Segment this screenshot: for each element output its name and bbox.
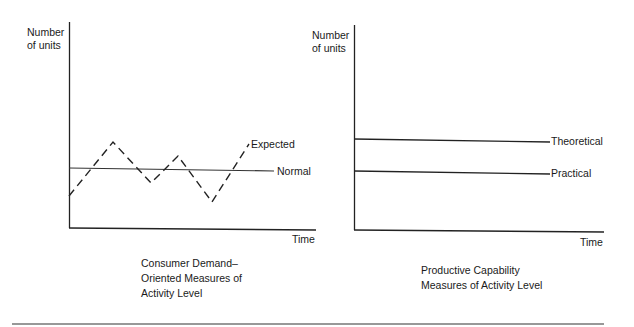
expected-label: Expected (251, 137, 295, 151)
left-caption: Consumer Demand– Oriented Measures of Ac… (141, 256, 242, 301)
right-caption: Productive Capability Measures of Activi… (421, 263, 542, 293)
right-xlabel: Time (580, 235, 603, 249)
theoretical-line (354, 139, 550, 142)
practical-label: Practical (551, 166, 591, 180)
left-ylabel-line1: Number (27, 25, 64, 39)
left-caption-line2: Oriented Measures of (141, 271, 242, 286)
theoretical-label: Theoretical (551, 134, 603, 148)
left-caption-line1: Consumer Demand– (141, 256, 242, 271)
right-ylabel-line1: Number (312, 28, 349, 42)
normal-label: Normal (277, 164, 311, 178)
expected-line (69, 142, 249, 202)
left-chart-axes (69, 22, 316, 230)
right-ylabel-line2: of units (312, 41, 346, 55)
right-caption-line2: Measures of Activity Level (421, 278, 542, 293)
right-caption-line1: Productive Capability (421, 263, 542, 278)
right-chart-axes (354, 25, 604, 232)
practical-line (354, 171, 550, 174)
normal-line (69, 168, 274, 171)
left-caption-line3: Activity Level (141, 286, 242, 301)
left-xlabel: Time (292, 232, 315, 246)
left-ylabel-line2: of units (27, 38, 61, 52)
